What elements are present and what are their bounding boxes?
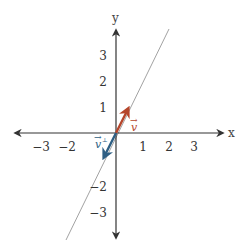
svg-text:v: v bbox=[95, 138, 102, 151]
y-tick-label: −3 bbox=[89, 206, 107, 220]
x-axis-label: x bbox=[228, 126, 235, 140]
vector-v-label: → v bbox=[130, 115, 138, 134]
vector-v-perp-label: → v ⊥ bbox=[94, 132, 108, 151]
x-tick-label: 1 bbox=[139, 140, 147, 154]
y-tick-label: 3 bbox=[99, 49, 107, 63]
x-tick-label: 2 bbox=[165, 140, 173, 154]
vector-v bbox=[116, 109, 128, 133]
x-tick-label: 3 bbox=[190, 140, 198, 154]
x-tick-label: −2 bbox=[58, 140, 76, 154]
y-tick-label: 2 bbox=[99, 75, 107, 89]
y-axis-label: y bbox=[111, 11, 119, 25]
x-tick-label: −3 bbox=[32, 140, 50, 154]
y-tick-label: 1 bbox=[99, 101, 107, 115]
svg-text:v: v bbox=[131, 121, 138, 134]
slope-line bbox=[66, 29, 169, 240]
coordinate-plane-diagram: x y −3 −2 1 2 3 3 2 1 −2 −3 → v → v ⊥ bbox=[0, 0, 247, 252]
svg-text:⊥: ⊥ bbox=[102, 136, 108, 143]
y-tick-label: −2 bbox=[89, 180, 107, 194]
